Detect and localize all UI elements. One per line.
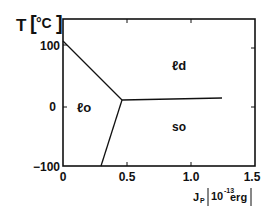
- y-ticks: [63, 19, 255, 166]
- boundary-lo-so: [101, 100, 122, 166]
- y-bracket-close: ]: [56, 12, 63, 34]
- region-lo-label: ℓo: [77, 100, 91, 115]
- region-ld-label: ℓd: [172, 58, 186, 73]
- xtick-10: 1.0: [183, 170, 200, 184]
- phase-diagram: ℓd ℓo so 100 0 −100 0 0.5 1.0 1.5 T [ °C…: [0, 0, 275, 210]
- ytick-m100: −100: [33, 160, 60, 174]
- boundary-lo-ld: [63, 41, 122, 100]
- x-axis-unit-suffix: erg: [230, 191, 247, 203]
- xtick-05: 0.5: [119, 170, 136, 184]
- region-so-label: so: [172, 120, 186, 134]
- y-axis-unit: °C: [36, 15, 52, 31]
- plot-frame: [63, 19, 255, 166]
- boundary-ld-so: [122, 98, 222, 100]
- ytick-100: 100: [40, 39, 60, 53]
- x-axis-sub-P: P: [200, 197, 205, 204]
- y-axis-label-T: T: [16, 16, 27, 35]
- x-axis-unit-base: 10: [211, 190, 223, 202]
- ytick-0: 0: [49, 100, 56, 114]
- xtick-15: 1.5: [244, 170, 261, 184]
- x-axis-label-J: J: [193, 191, 199, 203]
- xtick-0: 0: [60, 170, 67, 184]
